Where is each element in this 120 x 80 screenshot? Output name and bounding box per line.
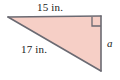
hypotenuse-length-label: 17 in. (21, 44, 47, 55)
vertical-side-variable-label: a (107, 38, 113, 49)
top-side-length-label: 15 in. (37, 2, 63, 13)
right-triangle-figure: 15 in. 17 in. a (0, 0, 120, 80)
triangle-top-edge (8, 16, 101, 17)
